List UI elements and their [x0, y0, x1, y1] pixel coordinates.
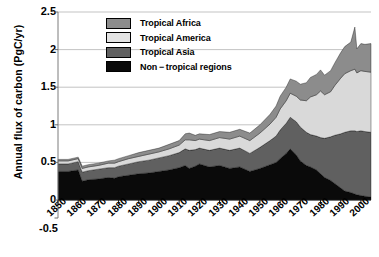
legend-swatch-icon	[106, 47, 131, 58]
chart-figure: Annual flux of carbon (PgC/yr) 2.521.510…	[0, 0, 379, 257]
legend-item: Tropical America	[106, 31, 256, 46]
legend-label: Tropical Africa	[140, 18, 201, 28]
legend-item: Tropical Asia	[106, 45, 256, 60]
chart-legend: Tropical AfricaTropical AmericaTropical …	[106, 16, 256, 74]
legend-item: Non − tropical regions	[106, 60, 256, 75]
legend-swatch-icon	[106, 32, 131, 43]
legend-label: Tropical Asia	[140, 47, 194, 57]
legend-item: Tropical Africa	[106, 16, 256, 31]
legend-swatch-icon	[106, 61, 131, 72]
legend-label: Non − tropical regions	[140, 62, 232, 72]
legend-label: Tropical America	[140, 33, 211, 43]
legend-swatch-icon	[106, 18, 131, 29]
